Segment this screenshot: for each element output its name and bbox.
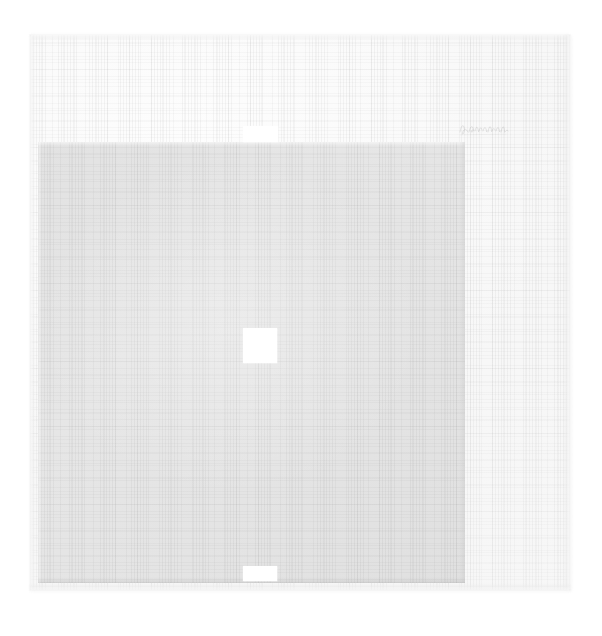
- white-reserve-top: [243, 126, 278, 142]
- artwork-canvas: [0, 0, 602, 636]
- paper-deckle-edge-top: [30, 33, 570, 39]
- square-edge-right: [459, 142, 465, 583]
- paper-deckle-edge-right: [565, 35, 572, 590]
- square-edge-top: [38, 142, 465, 146]
- pencil-signature-strokes: [458, 119, 510, 139]
- white-reserve-center: [243, 328, 277, 363]
- pencil-signature: [458, 119, 510, 139]
- paper-deckle-edge-bottom: [30, 585, 570, 592]
- paper-deckle-edge-left: [28, 35, 34, 590]
- white-reserve-bottom: [243, 566, 277, 581]
- square-edge-left: [38, 142, 42, 583]
